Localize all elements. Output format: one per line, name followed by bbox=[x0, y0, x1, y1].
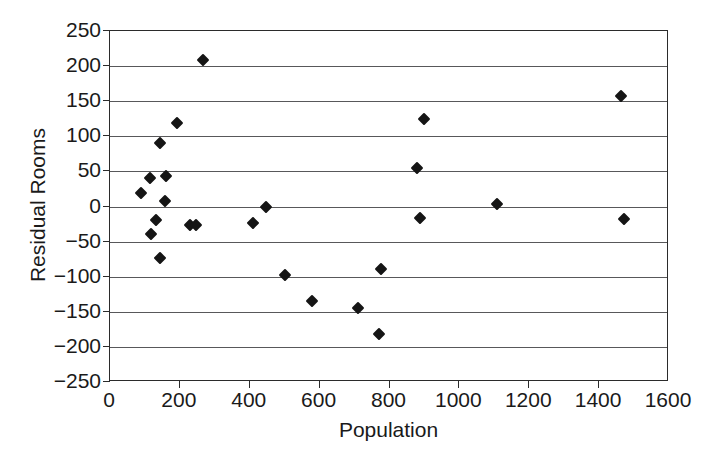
x-tick-label: 600 bbox=[301, 388, 336, 412]
x-tick-mark bbox=[319, 381, 320, 388]
gridline bbox=[110, 312, 667, 313]
x-tick-mark bbox=[179, 381, 180, 388]
x-tick-mark bbox=[249, 381, 250, 388]
data-point bbox=[134, 187, 147, 200]
y-tick-label: −50 bbox=[6, 229, 101, 253]
x-tick-mark bbox=[598, 381, 599, 388]
x-tick-label: 1400 bbox=[575, 388, 622, 412]
data-point bbox=[171, 117, 184, 130]
y-tick-label: −200 bbox=[6, 334, 101, 358]
x-tick-label: 800 bbox=[371, 388, 406, 412]
gridline bbox=[110, 136, 667, 137]
y-tick-label: 200 bbox=[6, 53, 101, 77]
data-point bbox=[617, 213, 630, 226]
gridline bbox=[110, 66, 667, 67]
gridline bbox=[110, 277, 667, 278]
data-point bbox=[260, 200, 273, 213]
data-point bbox=[158, 195, 171, 208]
data-point bbox=[197, 53, 210, 66]
data-point bbox=[247, 216, 260, 229]
plot-area bbox=[109, 30, 668, 381]
data-point bbox=[144, 172, 157, 185]
x-tick-mark bbox=[528, 381, 529, 388]
x-tick-mark bbox=[458, 381, 459, 388]
gridline bbox=[110, 242, 667, 243]
data-point bbox=[414, 211, 427, 224]
y-tick-label: 0 bbox=[6, 194, 101, 218]
y-tick-label: 250 bbox=[6, 18, 101, 42]
y-tick-mark bbox=[103, 381, 110, 382]
y-tick-label: −100 bbox=[6, 264, 101, 288]
x-tick-label: 1200 bbox=[505, 388, 552, 412]
x-axis-label: Population bbox=[109, 418, 668, 442]
x-tick-label: 200 bbox=[161, 388, 196, 412]
data-point bbox=[149, 213, 162, 226]
x-tick-label: 1000 bbox=[435, 388, 482, 412]
y-tick-label: −250 bbox=[6, 369, 101, 393]
data-point bbox=[373, 327, 386, 340]
y-tick-label: −150 bbox=[6, 299, 101, 323]
data-point bbox=[374, 263, 387, 276]
x-tick-label: 400 bbox=[231, 388, 266, 412]
data-point bbox=[417, 112, 430, 125]
y-tick-label: 150 bbox=[6, 88, 101, 112]
gridline bbox=[110, 101, 667, 102]
y-tick-label: 50 bbox=[6, 158, 101, 182]
gridline bbox=[110, 207, 667, 208]
data-point bbox=[306, 294, 319, 307]
data-point bbox=[145, 228, 158, 241]
y-tick-label: 100 bbox=[6, 123, 101, 147]
scatter-plot-figure: Residual Rooms Population −250−200−150−1… bbox=[0, 0, 721, 463]
data-point bbox=[614, 89, 627, 102]
data-point bbox=[154, 252, 167, 265]
y-axis-label: Residual Rooms bbox=[26, 5, 52, 405]
x-tick-label: 1600 bbox=[645, 388, 692, 412]
data-point bbox=[279, 268, 292, 281]
x-tick-label: 0 bbox=[103, 388, 115, 412]
gridline bbox=[110, 347, 667, 348]
gridline bbox=[110, 171, 667, 172]
data-point bbox=[154, 136, 167, 149]
x-tick-mark bbox=[389, 381, 390, 388]
data-point bbox=[491, 197, 504, 210]
